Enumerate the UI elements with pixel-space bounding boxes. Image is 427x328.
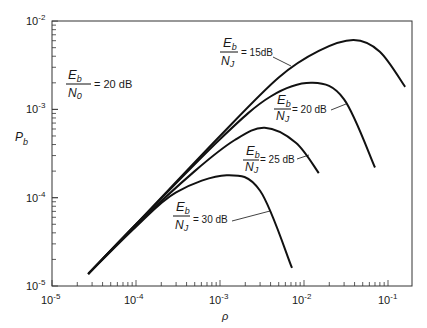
y-tick-1e-4: 10-4 — [26, 190, 46, 204]
svg-text:Eb: Eb — [176, 199, 190, 216]
x-tick-1e-5: 10-5 — [41, 292, 61, 306]
x-tick-1e-1: 10-1 — [378, 292, 398, 306]
svg-text:= 20 dB: = 20 dB — [292, 104, 327, 115]
svg-text:N0: N0 — [68, 86, 82, 101]
svg-text:Eb: Eb — [246, 143, 260, 160]
svg-text:NJ: NJ — [175, 218, 189, 233]
svg-text:= 30 dB: = 30 dB — [193, 214, 228, 225]
svg-text:Eb: Eb — [223, 35, 237, 52]
chart-figure: 10-2 10-3 10-4 10-5 10-5 10-4 10-3 10-2 … — [0, 0, 427, 328]
curve-20db — [88, 83, 375, 274]
label-25db: Eb NJ = 25 dB — [243, 143, 309, 175]
svg-text:NJ: NJ — [221, 54, 235, 69]
annotation-eb-n0: Eb N0 = 20 dB — [66, 67, 132, 101]
curve-25db — [88, 128, 319, 274]
svg-text:Eb: Eb — [277, 92, 291, 109]
x-tick-labels: 10-5 10-4 10-3 10-2 10-1 — [41, 292, 398, 306]
x-axis-label: ρ — [221, 310, 228, 322]
label-30db: Eb NJ = 30 dB — [173, 199, 270, 233]
y-tick-1e-3: 10-3 — [26, 101, 46, 115]
x-tick-1e-4: 10-4 — [124, 292, 144, 306]
svg-text:NJ: NJ — [245, 160, 259, 175]
svg-text:= 25 dB: = 25 dB — [260, 154, 295, 165]
axis-ticks — [52, 21, 388, 286]
label-20db: Eb NJ = 20 dB — [274, 92, 346, 124]
curve-30db — [88, 175, 292, 274]
svg-text:Eb: Eb — [68, 67, 82, 84]
svg-text:= 20 dB: = 20 dB — [94, 78, 132, 90]
y-axis-label: Pb — [15, 130, 28, 147]
svg-text:NJ: NJ — [276, 109, 290, 124]
label-15db: Eb NJ = 15dB — [220, 35, 291, 69]
y-tick-labels: 10-2 10-3 10-4 10-5 — [26, 13, 46, 292]
x-tick-1e-3: 10-3 — [209, 292, 229, 306]
x-tick-1e-2: 10-2 — [292, 292, 312, 306]
y-tick-1e-2: 10-2 — [26, 13, 46, 27]
y-tick-1e-5: 10-5 — [26, 278, 46, 292]
svg-text:= 15dB: = 15dB — [241, 47, 273, 58]
